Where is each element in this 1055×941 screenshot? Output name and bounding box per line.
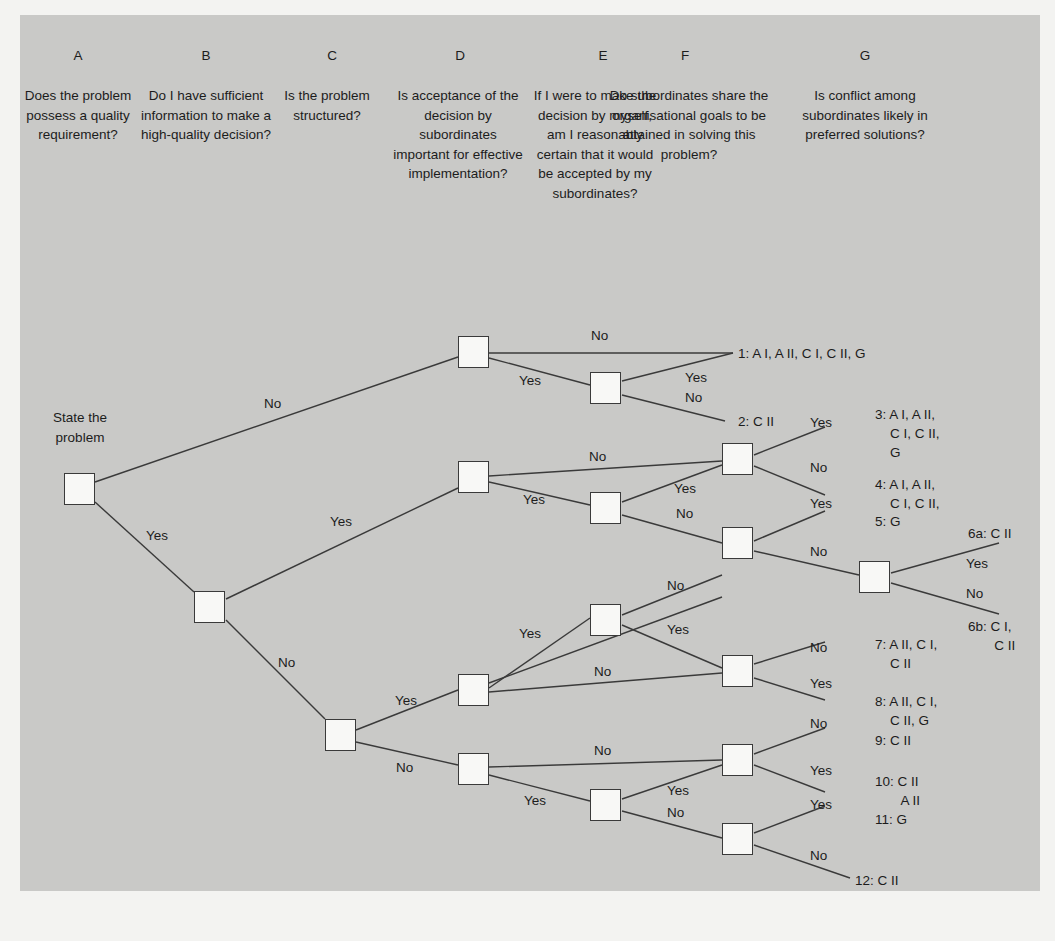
edge-label: Yes	[146, 528, 168, 543]
edge-label: Yes	[810, 676, 832, 691]
edge-label: Yes	[395, 693, 417, 708]
outcome-11: 11: G	[875, 810, 907, 829]
start-label: State the problem	[47, 408, 113, 447]
node-d-bottom	[458, 753, 489, 785]
node-start	[64, 473, 95, 505]
edge-label: Yes	[519, 373, 541, 388]
outcome-7: 7: A II, C I, C II	[875, 635, 937, 673]
node-f1	[722, 443, 753, 475]
node-f3	[722, 655, 753, 687]
node-f5	[722, 823, 753, 855]
edge-label: No	[278, 655, 295, 670]
outcome-8: 8: A II, C I, C II, G	[875, 692, 937, 730]
outcome-6a: 6a: C II	[968, 524, 1012, 543]
node-c	[325, 719, 356, 751]
edge-label: No	[685, 390, 702, 405]
node-e-top	[590, 372, 621, 404]
edge-label: No	[667, 578, 684, 593]
edge-label: No	[594, 664, 611, 679]
outcome-1: 1: A I, A II, C I, C II, G	[738, 344, 866, 363]
edge-label: No	[667, 805, 684, 820]
outcome-10: 10: C II A II	[875, 772, 920, 810]
edge-label: Yes	[674, 481, 696, 496]
node-e-mid	[590, 492, 621, 524]
edge-label: No	[591, 328, 608, 343]
edge-label: Yes	[966, 556, 988, 571]
outcome-12: 12: C II	[855, 871, 899, 890]
outcome-2: 2: C II	[738, 412, 774, 431]
edge-label: Yes	[685, 370, 707, 385]
edge-label: Yes	[810, 415, 832, 430]
edge-label: Yes	[523, 492, 545, 507]
edge-label: No	[810, 460, 827, 475]
edge-label: Yes	[810, 763, 832, 778]
node-e-low	[590, 604, 621, 636]
edge-label: No	[396, 760, 413, 775]
edge-label: Yes	[667, 622, 689, 637]
node-d-mid	[458, 461, 489, 493]
edge-label: No	[594, 743, 611, 758]
edge-label: No	[810, 848, 827, 863]
node-g	[859, 561, 890, 593]
edge-label: No	[676, 506, 693, 521]
node-e-bottom	[590, 789, 621, 821]
outcome-9: 9: C II	[875, 731, 911, 750]
outcome-3: 3: A I, A II, C I, C II, G	[875, 405, 940, 462]
edge-label: Yes	[524, 793, 546, 808]
node-f2	[722, 527, 753, 559]
node-d-lower	[458, 674, 489, 706]
edge-label: No	[264, 396, 281, 411]
node-b	[194, 591, 225, 623]
edge-label: No	[589, 449, 606, 464]
edge-label: No	[810, 544, 827, 559]
node-d-top	[458, 336, 489, 368]
edge-label: No	[810, 640, 827, 655]
node-f4	[722, 744, 753, 776]
edge-label: No	[966, 586, 983, 601]
edge-label: Yes	[519, 626, 541, 641]
edge-label: Yes	[810, 797, 832, 812]
edge-label: Yes	[810, 496, 832, 511]
edge-label: No	[810, 716, 827, 731]
edge-label: Yes	[667, 783, 689, 798]
edge-label: Yes	[330, 514, 352, 529]
outcome-6b: 6b: C I, C II	[968, 617, 1015, 655]
outcome-4: 4: A I, A II, C I, C II,	[875, 475, 940, 513]
outcome-5: 5: G	[875, 512, 901, 531]
